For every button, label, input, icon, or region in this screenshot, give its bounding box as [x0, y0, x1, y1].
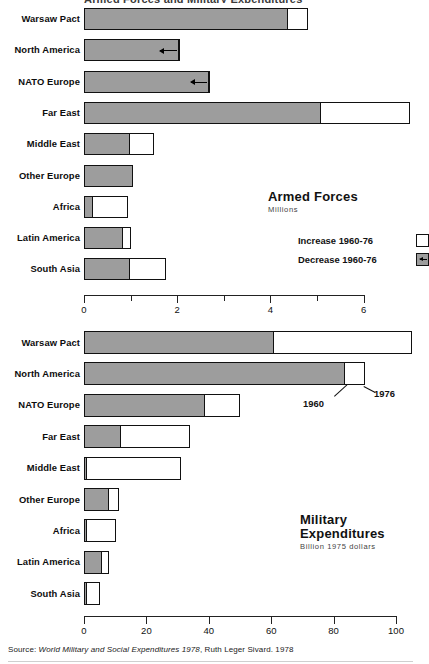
bar-middle-east	[84, 457, 181, 480]
bar-far-east	[84, 425, 190, 448]
axis-tick	[84, 295, 85, 303]
axis-tick-label: 80	[328, 625, 339, 636]
bar-latin-america	[84, 551, 109, 574]
bar-africa	[84, 196, 128, 218]
category-label: Warsaw Pact	[2, 337, 80, 348]
bar-warsaw-pact	[84, 331, 412, 354]
axis-tick	[270, 295, 271, 303]
legend-label-increase: Increase 1960-76	[298, 235, 410, 246]
category-label: Other Europe	[2, 494, 80, 505]
category-label: South Asia	[2, 263, 80, 274]
axis-line	[84, 616, 396, 617]
bar-middle-east	[84, 133, 154, 155]
leader-line-1960	[334, 385, 347, 397]
armed-forces-title: Armed Forces	[268, 190, 358, 204]
bar-north-america	[84, 362, 365, 385]
category-label: North America	[2, 368, 80, 379]
legend-swatch-increase-icon	[416, 234, 429, 247]
axis-tick-label: 100	[388, 625, 404, 636]
category-label: Far East	[2, 107, 80, 118]
decrease-arrow-icon	[160, 50, 177, 51]
segment-1960	[85, 197, 93, 217]
axis-tick	[177, 295, 178, 303]
military-expenditures-x-axis: 020406080100	[0, 616, 421, 642]
bar-north-america	[84, 39, 180, 61]
segment-1960	[85, 228, 123, 248]
source-prefix: Source:	[8, 645, 36, 654]
segment-1960	[85, 426, 121, 447]
bar-other-europe	[84, 488, 119, 511]
category-label: North America	[2, 44, 80, 55]
cropped-figure-title: Armed Forces and Military Expenditures	[84, 0, 384, 3]
axis-tick	[209, 616, 210, 624]
axis-tick-label: 0	[81, 625, 86, 636]
axis-tick-label: 4	[268, 304, 273, 315]
military-expenditures-title-line1: Military	[300, 513, 385, 527]
segment-1960	[85, 395, 205, 416]
source-suffix: , Ruth Leger Sivard. 1978	[200, 645, 294, 654]
category-label: Latin America	[2, 232, 80, 243]
bar-nato-europe	[84, 71, 210, 93]
axis-tick	[364, 295, 365, 303]
segment-1960	[85, 103, 321, 123]
military-expenditures-title-line2: Expenditures	[300, 527, 385, 541]
category-label: Latin America	[2, 556, 80, 567]
military-expenditures-caption: Military Expenditures Billion 1975 dolla…	[300, 513, 385, 551]
bar-nato-europe	[84, 394, 240, 417]
category-label: Middle East	[2, 462, 80, 473]
segment-1960	[85, 489, 109, 510]
axis-tick-label: 20	[141, 625, 152, 636]
legend-item-decrease: Decrease 1960-76	[298, 253, 429, 266]
bar-other-europe	[84, 165, 133, 187]
axis-tick	[271, 616, 272, 624]
bar-south-asia	[84, 582, 100, 605]
bar-africa	[84, 519, 116, 542]
category-label: Middle East	[2, 138, 80, 149]
category-label: Other Europe	[2, 170, 80, 181]
axis-tick-label: 60	[266, 625, 277, 636]
armed-forces-caption: Armed Forces Millions	[268, 190, 358, 214]
legend-label-decrease: Decrease 1960-76	[298, 254, 410, 265]
category-label: Africa	[2, 201, 80, 212]
axis-tick	[224, 295, 225, 301]
category-label: Far East	[2, 431, 80, 442]
segment-1960	[85, 552, 102, 573]
bar-far-east	[84, 102, 410, 124]
axis-tick	[334, 616, 335, 624]
segment-1960	[85, 332, 274, 353]
axis-tick	[317, 295, 318, 301]
military-expenditures-subtitle: Billion 1975 dollars	[300, 542, 385, 551]
armed-forces-subtitle: Millions	[268, 205, 358, 214]
axis-tick	[131, 295, 132, 301]
segment-1960	[85, 259, 130, 279]
bar-south-asia	[84, 258, 166, 280]
segment-1960	[85, 363, 345, 384]
segment-1960	[85, 166, 132, 186]
category-label: Africa	[2, 525, 80, 536]
bar-warsaw-pact	[84, 8, 308, 30]
category-label: Warsaw Pact	[2, 13, 80, 24]
axis-tick	[146, 616, 147, 624]
axis-tick-label: 40	[204, 625, 215, 636]
axis-tick-label: 6	[361, 304, 366, 315]
axis-tick	[84, 616, 85, 624]
segment-1960	[85, 9, 288, 29]
callout-1976: 1976	[374, 388, 395, 399]
bar-latin-america	[84, 227, 131, 249]
axis-tick-label: 2	[175, 304, 180, 315]
category-label: South Asia	[2, 588, 80, 599]
source-note: Source: World Military and Social Expend…	[8, 645, 294, 654]
callout-1960: 1960	[303, 398, 324, 409]
category-label: NATO Europe	[2, 399, 80, 410]
segment-1960	[85, 134, 130, 154]
legend-item-increase: Increase 1960-76	[298, 234, 429, 247]
bottom-divider	[8, 661, 413, 662]
decrease-arrow-icon	[191, 82, 207, 83]
segment-1960	[85, 583, 87, 604]
source-title: World Military and Social Expenditures 1…	[39, 645, 200, 654]
armed-forces-x-axis: 0246	[0, 295, 421, 321]
axis-tick-label: 0	[81, 304, 86, 315]
armed-forces-legend: Increase 1960-76 Decrease 1960-76	[298, 228, 429, 266]
segment-1960	[85, 458, 87, 479]
